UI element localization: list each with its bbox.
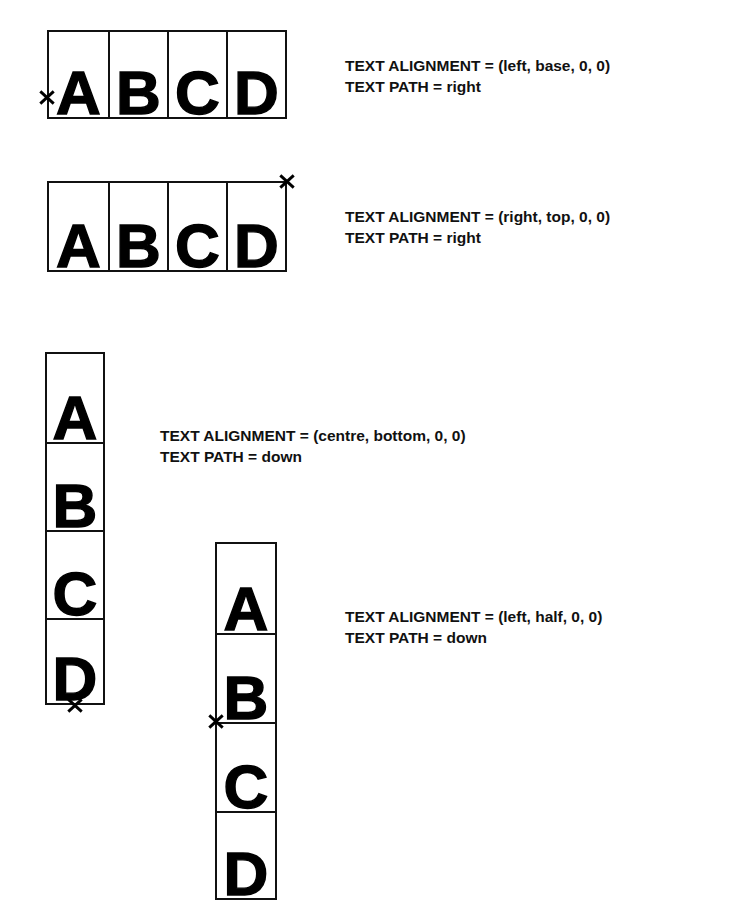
text-path-label: TEXT PATH = right [345, 76, 610, 97]
letter-glyph: C [175, 69, 220, 117]
letter-glyph: C [224, 763, 269, 811]
letter-cell: C [167, 32, 226, 117]
text-alignment-label: TEXT ALIGNMENT = (left, half, 0, 0) [345, 606, 602, 627]
letter-glyph: B [116, 222, 161, 270]
example-left-half-caption: TEXT ALIGNMENT = (left, half, 0, 0) TEXT… [345, 606, 602, 648]
letter-glyph: D [53, 655, 98, 703]
example-left-base-boxes: A B C D [47, 30, 287, 119]
letter-cell: B [217, 633, 275, 722]
example-left-base-caption: TEXT ALIGNMENT = (left, base, 0, 0) TEXT… [345, 55, 610, 97]
example-left-half-boxes: A B C D [215, 542, 277, 900]
text-path-label: TEXT PATH = down [345, 627, 602, 648]
letter-glyph: C [175, 222, 220, 270]
text-path-label: TEXT PATH = right [345, 227, 610, 248]
example-centre-bottom-boxes: A B C D [45, 352, 105, 705]
letter-glyph: C [53, 570, 98, 618]
letter-cell: C [167, 183, 226, 270]
letter-cell: A [47, 354, 103, 442]
example-right-top-caption: TEXT ALIGNMENT = (right, top, 0, 0) TEXT… [345, 206, 610, 248]
letter-glyph: B [116, 69, 161, 117]
letter-cell: B [47, 442, 103, 530]
text-alignment-label: TEXT ALIGNMENT = (centre, bottom, 0, 0) [160, 425, 466, 446]
letter-cell: B [108, 183, 167, 270]
letter-cell: A [217, 544, 275, 633]
example-centre-bottom-caption: TEXT ALIGNMENT = (centre, bottom, 0, 0) … [160, 425, 466, 467]
letter-glyph: D [224, 850, 269, 898]
text-alignment-figure: A B C D TEXT ALIGNMENT = (left, base, 0,… [0, 0, 736, 900]
letter-glyph: D [234, 69, 279, 117]
letter-cell: C [47, 530, 103, 618]
letter-cell: A [49, 183, 108, 270]
letter-cell: D [226, 183, 285, 270]
letter-cell: D [226, 32, 285, 117]
letter-glyph: A [56, 69, 101, 117]
letter-glyph: A [224, 585, 269, 633]
text-alignment-label: TEXT ALIGNMENT = (left, base, 0, 0) [345, 55, 610, 76]
letter-glyph: A [56, 222, 101, 270]
letter-cell: D [47, 618, 103, 703]
letter-glyph: B [53, 482, 98, 530]
letter-cell: A [49, 32, 108, 117]
letter-cell: B [108, 32, 167, 117]
letter-glyph: D [234, 222, 279, 270]
letter-cell: D [217, 811, 275, 898]
text-alignment-label: TEXT ALIGNMENT = (right, top, 0, 0) [345, 206, 610, 227]
text-path-label: TEXT PATH = down [160, 446, 466, 467]
example-right-top-boxes: A B C D [47, 181, 287, 272]
letter-glyph: A [53, 394, 98, 442]
letter-cell: C [217, 722, 275, 811]
letter-glyph: B [224, 674, 269, 722]
